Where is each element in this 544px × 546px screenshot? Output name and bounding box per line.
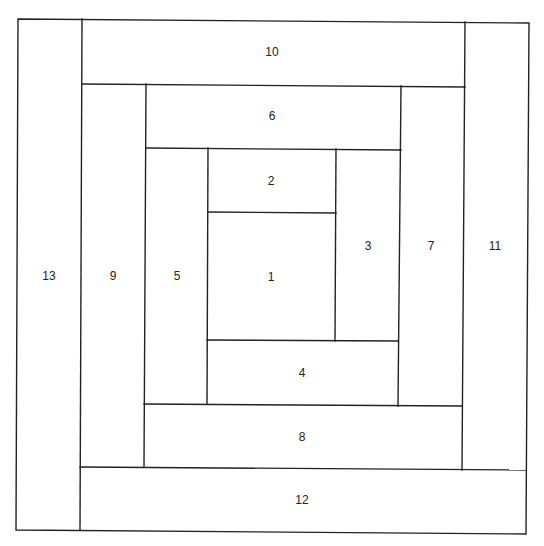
divider-4-top: [207, 340, 398, 341]
block-label-9: 9: [110, 269, 117, 283]
divider-7-left: [398, 86, 401, 406]
block-label-7: 7: [428, 239, 435, 253]
divider-12-top: [80, 467, 526, 470]
block-label-5: 5: [174, 269, 181, 283]
divider-2-bottom: [208, 212, 336, 213]
block-label-12: 12: [295, 493, 309, 507]
block-label-2: 2: [268, 174, 275, 188]
divider-8-top: [144, 404, 462, 406]
divider-13-right: [80, 19, 82, 530]
divider-10-bottom: [82, 84, 465, 87]
divider-11-left: [462, 22, 465, 470]
block-label-11: 11: [489, 239, 502, 253]
block-label-3: 3: [365, 239, 372, 253]
block-label-8: 8: [299, 430, 306, 444]
block-label-4: 4: [299, 366, 306, 380]
divider-9-right: [144, 84, 146, 467]
block-label-10: 10: [265, 45, 279, 59]
block-label-6: 6: [269, 109, 276, 123]
block-label-13: 13: [42, 269, 56, 283]
divider-3-left: [335, 149, 336, 341]
divider-6-bottom: [146, 148, 401, 150]
log-cabin-diagram: 12345678910111213: [0, 0, 544, 546]
block-labels: 12345678910111213: [42, 45, 501, 507]
divider-lines: [80, 19, 526, 530]
block-label-1: 1: [268, 270, 275, 284]
divider-5-right: [207, 148, 208, 404]
